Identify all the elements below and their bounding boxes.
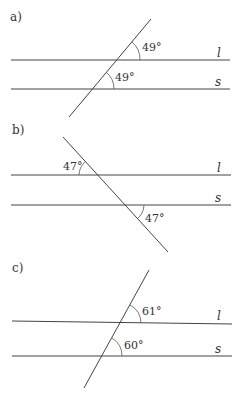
- line-s-label: s: [215, 191, 221, 205]
- angle-top-value: 49°: [142, 41, 162, 54]
- line-l-label: l: [217, 309, 221, 323]
- angle-top-value: 61°: [142, 305, 162, 318]
- angle-arc-bottom: [137, 205, 144, 219]
- angle-bottom-value: 60°: [124, 339, 144, 352]
- transversal: [63, 137, 168, 252]
- panel-label: b): [12, 123, 24, 137]
- line-l-label: l: [217, 161, 221, 175]
- transversal: [69, 19, 151, 117]
- panel-label: a): [10, 10, 22, 24]
- line-s-label: s: [215, 75, 221, 89]
- panel-b: b) 47° 47° l s: [11, 123, 231, 252]
- angle-arc-bottom: [106, 72, 114, 89]
- transversal: [84, 270, 149, 388]
- angle-bottom-value: 49°: [115, 71, 135, 84]
- line-l-label: l: [217, 46, 221, 60]
- panel-a: a) 49° 49° l s: [10, 10, 230, 117]
- line-s-label: s: [215, 342, 221, 356]
- panel-c: c) 61° 60° l s: [12, 261, 232, 388]
- angle-top-value: 47°: [63, 160, 83, 173]
- angle-arc-top: [132, 42, 140, 60]
- angle-arc-top: [130, 305, 141, 323]
- parallel-lines-diagram: a) 49° 49° l s b) 47° 47° l s c) 61° 60°…: [0, 0, 242, 399]
- panel-label: c): [12, 261, 23, 275]
- angle-bottom-value: 47°: [145, 212, 165, 225]
- line-l: [12, 321, 232, 324]
- angle-arc-bottom: [112, 338, 122, 356]
